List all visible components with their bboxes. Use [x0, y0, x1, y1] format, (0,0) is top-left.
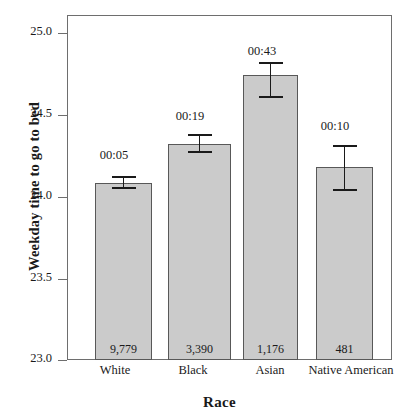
error-bar-asian	[243, 62, 298, 98]
y-axis-tick-label-2: 24.0	[30, 188, 52, 203]
bar-count-asian: 1,176	[244, 342, 297, 357]
y-axis-tick-mark-0	[58, 33, 67, 34]
y-axis-tick-label-3: 23.5	[30, 270, 52, 285]
bar-black[interactable]: 3,390	[168, 144, 231, 360]
bar-count-black: 3,390	[169, 342, 230, 357]
bar-native-american[interactable]: 481	[316, 167, 373, 360]
y-axis-tick-mark-1	[58, 115, 67, 116]
error-bar-black	[168, 134, 231, 153]
error-bar-cap-top-native-american	[333, 145, 357, 147]
y-axis-tick-label-0: 25.0	[30, 24, 52, 39]
x-axis-label-asian: Asian	[230, 364, 310, 377]
bar-count-white: 9,779	[96, 342, 151, 357]
error-bar-cap-top-asian	[259, 62, 283, 64]
error-bar-cap-bottom-black	[188, 151, 212, 153]
y-axis-tick-label-4: 23.0	[30, 351, 52, 366]
plot-area: 00:05 9,779 00:19 3,390 00:43 1,176	[67, 15, 392, 360]
error-bar-white	[95, 176, 152, 189]
bar-value-label-native-american: 00:10	[295, 119, 375, 134]
x-axis-title-text: Race	[203, 394, 236, 410]
bar-chart-figure: Weekday time to go to bed 25.0 24.5 24.0…	[0, 0, 407, 420]
bar-asian[interactable]: 1,176	[243, 75, 298, 360]
bar-value-label-white: 00:05	[74, 148, 154, 163]
bar-value-label-black: 00:19	[150, 109, 230, 124]
error-bar-cap-bottom-white	[112, 187, 136, 189]
x-axis-label-black: Black	[153, 364, 233, 377]
error-bar-cap-top-black	[188, 134, 212, 136]
x-axis-title: Race	[0, 394, 407, 411]
error-bar-native-american	[316, 145, 373, 191]
y-axis-tick-mark-4	[58, 360, 67, 361]
x-axis-label-white: White	[75, 364, 155, 377]
x-axis-label-native-american: Native American	[305, 364, 397, 377]
error-bar-stem-asian	[270, 62, 272, 98]
error-bar-cap-top-white	[112, 176, 136, 178]
bar-white[interactable]: 9,779	[95, 183, 152, 360]
bar-count-native-american: 481	[317, 342, 372, 357]
bar-value-label-asian: 00:43	[222, 44, 302, 59]
error-bar-cap-bottom-native-american	[333, 189, 357, 191]
y-axis-tick-mark-2	[58, 197, 67, 198]
error-bar-cap-bottom-asian	[259, 96, 283, 98]
error-bar-stem-native-american	[344, 145, 346, 191]
y-axis-tick-mark-3	[58, 279, 67, 280]
y-axis-tick-label-1: 24.5	[30, 106, 52, 121]
